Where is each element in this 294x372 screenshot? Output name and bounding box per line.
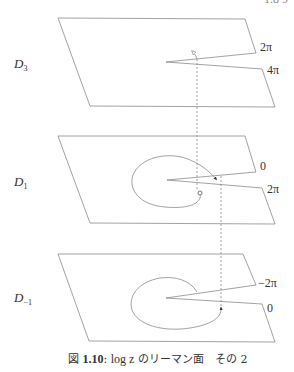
plane-label-d1: D1 — [14, 175, 27, 191]
caption-text: のリーマン面 その 2 — [138, 353, 248, 366]
d3-upper-edge-label: 2π — [260, 41, 272, 53]
d3-lower-edge-label: 4π — [267, 64, 279, 76]
d-1-upper-edge-label: −2π — [258, 277, 277, 289]
path-d-1 — [131, 278, 221, 330]
plane-d3-outline — [58, 18, 275, 107]
caption-colon: : — [104, 353, 108, 366]
caption-number: 1.10 — [83, 352, 104, 366]
path-d1 — [132, 156, 216, 208]
path-d3 — [193, 52, 197, 59]
plane-d1-outline — [58, 136, 275, 224]
riemann-surface-diagram — [0, 0, 294, 372]
plane-label-d3: D3 — [14, 57, 27, 73]
figure-caption: 図 1.10: log z のリーマン面 その 2 — [68, 350, 247, 367]
caption-fig: 図 — [68, 353, 79, 366]
caption-math: log z — [111, 352, 135, 366]
plane-label-d-1: D−1 — [14, 291, 32, 307]
d1-upper-edge-label: 0 — [260, 160, 266, 172]
d1-lower-edge-label: 2π — [267, 183, 279, 195]
d-1-lower-edge-label: 0 — [267, 302, 273, 314]
